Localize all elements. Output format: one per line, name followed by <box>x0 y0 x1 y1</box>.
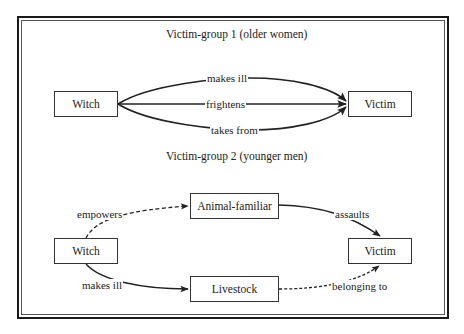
label-belonging-to: belonging to <box>331 280 388 292</box>
group2-title: Victim-group 2 (younger men) <box>166 150 307 162</box>
label-frightens: frightens <box>205 98 246 110</box>
node-witch-g1: Witch <box>54 91 118 117</box>
label-assaults: assaults <box>334 208 370 220</box>
node-animal-familiar: Animal-familiar <box>190 193 279 219</box>
label-takes-from: takes from <box>210 124 259 136</box>
label-empowers: empowers <box>76 208 123 220</box>
node-victim-g1: Victim <box>348 91 412 117</box>
group1-title: Victim-group 1 (older women) <box>166 28 307 40</box>
node-victim-g2: Victim <box>348 238 412 264</box>
label-makes-ill-g1: makes ill <box>206 72 248 84</box>
node-witch-g2: Witch <box>54 238 118 264</box>
label-makes-ill-g2: makes ill <box>81 279 123 291</box>
node-livestock: Livestock <box>190 276 279 302</box>
